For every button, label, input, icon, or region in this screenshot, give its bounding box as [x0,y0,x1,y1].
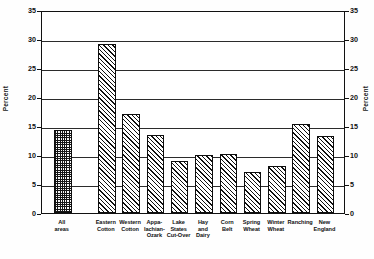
bar-new-england [317,136,335,213]
bar-all-areas [54,130,72,213]
gridline-30 [42,41,344,42]
y-tick-label-left-25: 25 [19,65,36,72]
y-tick-mark-right-35 [345,11,349,12]
x-label-new-england: NewEngland [305,219,343,232]
gridline-25 [42,70,344,71]
y-tick-mark-right-5 [345,185,349,186]
y-tick-mark-right-30 [345,40,349,41]
y-tick-label-left-35: 35 [19,7,36,14]
bar-appalachian-ozark [147,135,165,213]
y-tick-mark-right-0 [345,214,349,215]
y-tick-mark-right-20 [345,98,349,99]
bar-lake-states-cut-over [171,161,189,213]
y-tick-label-right-25: 25 [350,65,367,72]
y-tick-label-left-30: 30 [19,36,36,43]
y-tick-mark-left-0 [37,214,41,215]
y-tick-label-right-30: 30 [350,36,367,43]
y-tick-label-right-15: 15 [350,123,367,130]
bar-corn-belt [220,154,238,213]
y-tick-label-left-20: 20 [19,94,36,101]
bar-eastern-cotton [98,44,116,213]
bar-winter-wheat [268,166,286,213]
x-label-all-areas: Allareas [43,219,81,232]
bar-chart: Percent Percent 05101520253035 051015202… [0,0,374,259]
y-tick-mark-right-10 [345,156,349,157]
y-tick-label-left-0: 0 [19,210,36,217]
y-tick-label-left-10: 10 [19,152,36,159]
bar-western-cotton [122,114,140,213]
y-tick-label-right-0: 0 [350,210,367,217]
y-tick-label-right-35: 35 [350,7,367,14]
y-axis-title-left: Percent [2,86,9,111]
bar-spring-wheat [244,172,262,213]
plot-area [41,11,345,214]
bar-ranching [292,124,310,213]
y-tick-mark-right-15 [345,127,349,128]
y-tick-label-right-20: 20 [350,94,367,101]
gridline-20 [42,99,344,100]
bar-hay-and-dairy [195,155,213,213]
y-tick-label-right-10: 10 [350,152,367,159]
y-tick-label-right-5: 5 [350,181,367,188]
y-tick-label-left-15: 15 [19,123,36,130]
y-tick-mark-right-25 [345,69,349,70]
y-tick-label-left-5: 5 [19,181,36,188]
